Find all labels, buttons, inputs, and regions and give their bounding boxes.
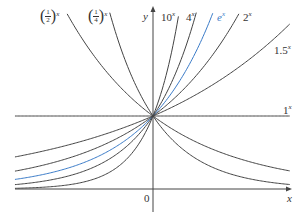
- two-exponent: x: [249, 10, 252, 18]
- half-exponent: x: [56, 10, 59, 18]
- curve-1-5x: [15, 24, 290, 157]
- curve-12x: [67, 14, 290, 171]
- label-one-power-x: 1x: [283, 104, 292, 116]
- half-denominator: 2: [46, 17, 50, 24]
- onefive-exponent: x: [288, 43, 291, 51]
- label-onefive-power-x: 1.5x: [274, 44, 291, 56]
- curve-2x: [15, 14, 239, 171]
- label-ten-power-x: 10x: [161, 11, 175, 23]
- quarter-denominator: 4: [94, 17, 98, 24]
- onefive-base: 1.5: [274, 44, 288, 56]
- e-exponent: x: [222, 10, 225, 18]
- quarter-exponent: x: [104, 10, 107, 18]
- label-two-power-x: 2x: [243, 11, 252, 23]
- origin-label: 0: [144, 193, 150, 204]
- x-axis-arrow-icon: [286, 187, 292, 192]
- curves-group: [15, 13, 290, 189]
- one-exponent: x: [289, 103, 292, 111]
- x-axis-label: x: [287, 193, 292, 204]
- y-axis-label: y: [143, 11, 148, 22]
- label-quarter-power-x: (14)x: [88, 8, 107, 24]
- label-half-power-x: (12)x: [40, 8, 59, 24]
- curve-4x: [15, 13, 196, 185]
- exponential-functions-chart: [0, 0, 306, 221]
- four-exponent: x: [192, 10, 195, 18]
- label-e-power-x: ex: [217, 11, 225, 23]
- label-four-power-x: 4x: [186, 11, 195, 23]
- curve-14x: [110, 13, 290, 185]
- y-axis-arrow-icon: [151, 6, 156, 12]
- ten-exponent: x: [172, 10, 175, 18]
- ten-base: 10: [161, 11, 172, 23]
- curve-ex: [15, 13, 213, 179]
- curve-10x: [15, 16, 178, 188]
